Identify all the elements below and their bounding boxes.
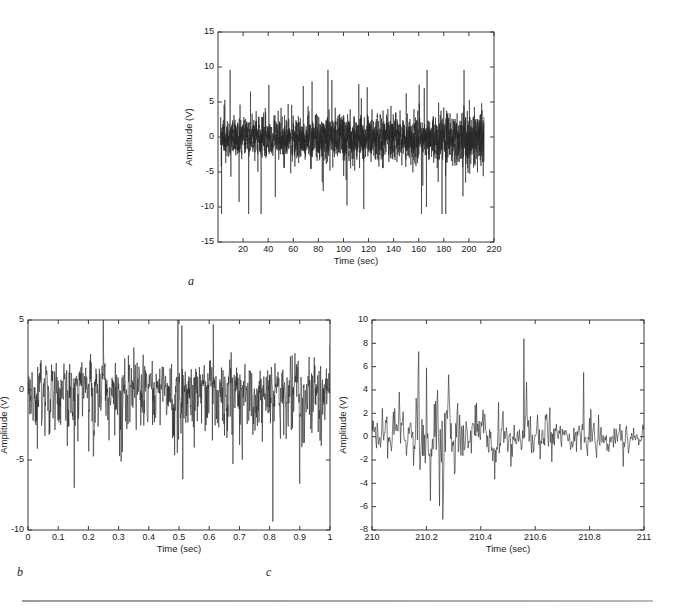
series-line [372, 339, 644, 520]
panel-caption-a: a [188, 275, 194, 287]
x-tick-label: 210.2 [415, 532, 438, 542]
y-tick-label: -5 [206, 166, 214, 176]
panel-b-container-svg: 00.10.20.30.40.50.60.70.80.91-10-505Time… [4, 314, 336, 566]
y-tick-label: 6 [363, 361, 368, 371]
y-tick-label: -4 [360, 478, 368, 488]
x-axis-title: Time (sec) [334, 255, 379, 266]
x-tick-label: 40 [263, 244, 273, 254]
panel-a-container-svg: 20406080100120140160180200220-15-10-5051… [184, 26, 500, 278]
y-tick-label: -2 [360, 454, 368, 464]
x-tick-label: 80 [313, 244, 323, 254]
y-tick-label: -8 [360, 524, 368, 534]
series-line [221, 70, 484, 214]
x-tick-label: 60 [288, 244, 298, 254]
x-tick-label: 160 [411, 244, 426, 254]
y-tick-label: 5 [209, 96, 214, 106]
x-axis-title: Time (sec) [486, 543, 531, 554]
x-tick-label: 0.2 [82, 532, 95, 542]
x-tick-label: 0.7 [233, 532, 246, 542]
x-tick-label: 210.4 [470, 532, 493, 542]
y-tick-label: 10 [358, 314, 368, 324]
panel-caption-c: c [266, 566, 271, 578]
x-tick-label: 200 [461, 244, 476, 254]
x-tick-label: 140 [386, 244, 401, 254]
x-tick-label: 0.4 [143, 532, 156, 542]
x-tick-label: 220 [486, 244, 501, 254]
y-tick-label: -10 [201, 201, 214, 211]
plot-box [28, 320, 330, 530]
series-line [28, 320, 330, 522]
x-axis-title: Time (sec) [157, 543, 202, 554]
x-tick-label: 0.8 [263, 532, 276, 542]
x-tick-label: 0.3 [112, 532, 125, 542]
y-tick-label: 5 [19, 314, 24, 324]
chart-panel-c: 210210.2210.4210.6210.8211-8-6-4-2024681… [338, 314, 650, 566]
x-tick-label: 210.8 [578, 532, 601, 542]
y-tick-label: 4 [363, 384, 368, 394]
y-axis-title: Amplitude (V) [337, 396, 348, 454]
x-tick-label: 120 [361, 244, 376, 254]
chart-panel-a: 20406080100120140160180200220-15-10-5051… [184, 26, 500, 278]
y-tick-label: 0 [209, 131, 214, 141]
y-tick-label: 15 [204, 26, 214, 36]
x-tick-label: 1 [327, 532, 332, 542]
chart-panel-b: 00.10.20.30.40.50.60.70.80.91-10-505Time… [4, 314, 336, 566]
x-tick-label: 0.9 [294, 532, 307, 542]
y-tick-label: -10 [11, 524, 24, 534]
x-tick-label: 100 [336, 244, 351, 254]
x-tick-label: 0.6 [203, 532, 216, 542]
x-tick-label: 0.1 [52, 532, 65, 542]
y-axis-title: Amplitude (V) [183, 108, 194, 166]
panel-c-container-svg: 210210.2210.4210.6210.8211-8-6-4-2024681… [338, 314, 650, 566]
y-axis-title: Amplitude (V) [0, 396, 9, 454]
x-tick-label: 210.6 [524, 532, 547, 542]
x-tick-label: 211 [637, 532, 651, 542]
x-tick-label: 0 [25, 532, 30, 542]
y-tick-label: 0 [363, 431, 368, 441]
x-tick-label: 20 [238, 244, 248, 254]
y-tick-label: 2 [363, 408, 368, 418]
footer-divider-rule [22, 600, 653, 602]
x-tick-label: 180 [436, 244, 451, 254]
figure-root: 20406080100120140160180200220-15-10-5051… [0, 0, 675, 612]
y-tick-label: -6 [360, 501, 368, 511]
y-tick-label: 10 [204, 61, 214, 71]
y-tick-label: -5 [16, 454, 24, 464]
panel-caption-b: b [17, 566, 23, 578]
x-tick-label: 0.5 [173, 532, 186, 542]
plot-box [372, 320, 644, 530]
y-tick-label: 8 [363, 338, 368, 348]
y-tick-label: -15 [201, 236, 214, 246]
y-tick-label: 0 [19, 384, 24, 394]
